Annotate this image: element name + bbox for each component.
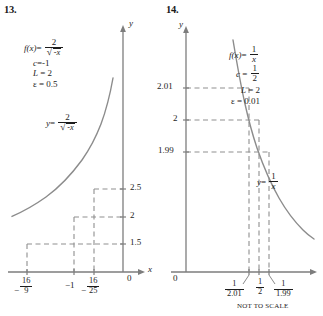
xtick-denominator: 2: [256, 288, 264, 297]
xtick-denominator: 25: [87, 287, 99, 296]
figure-13-curve-label: y= 2 √ -x: [46, 113, 78, 133]
param-L-value: 2: [48, 68, 53, 78]
fx-symbol: f(x): [24, 43, 37, 53]
figure-13-definition: f(x)= 2 √ -x: [24, 38, 64, 58]
param-c: c=-1: [33, 59, 58, 68]
y-axis-label: y: [179, 19, 183, 29]
x-axis-label: x: [148, 264, 152, 274]
y-axis-arrow: [183, 26, 189, 33]
radicand: -x: [53, 48, 62, 58]
param-L-equals: =: [40, 68, 45, 78]
param-c-denominator: 2: [251, 74, 260, 83]
param-c-equals: =: [242, 69, 247, 79]
param-epsilon-equals: =: [237, 96, 242, 106]
param-epsilon-name: ε: [231, 96, 235, 106]
param-L-equals: =: [248, 85, 253, 95]
figure-14: 14.: [161, 0, 323, 316]
figure-14-definition: f(x)= 1 x: [229, 45, 259, 64]
origin-label: 0: [127, 273, 132, 283]
xtick-numerator: 1: [70, 280, 75, 290]
ytick-label-1.99: 1.99: [158, 145, 174, 155]
fraction-denominator: √ -x: [45, 48, 64, 58]
curve-label-fraction: 2 √ -x: [58, 113, 77, 133]
equals-sign: =: [37, 43, 42, 53]
curve-label-radical-expression: √ -x: [60, 123, 75, 133]
param-epsilon: ε = 0.5: [33, 80, 58, 89]
figure-13-parameters: c=-1 L = 2 ε = 0.5: [33, 59, 58, 90]
curve-label-denominator: √ -x: [58, 123, 77, 133]
xtick-sign: −: [81, 285, 86, 295]
radical-icon: √: [60, 123, 65, 133]
curve-label-equals: =: [50, 118, 55, 128]
ytick-label-2.01: 2.01: [157, 81, 173, 91]
param-c: c = 1 2: [231, 64, 260, 83]
ytick-label-2.5: 2.5: [130, 182, 141, 192]
xtick-label-neg16-9: −169: [14, 277, 33, 295]
param-c-fraction: 1 2: [251, 64, 260, 83]
ytick-label-1.5: 1.5: [130, 237, 141, 247]
xtick-sign: −: [14, 285, 19, 295]
xtick-denominator: 1.99: [274, 290, 293, 299]
xtick-label-1-over-1.99: 11.99: [273, 280, 294, 298]
curve-label-equals: =: [261, 177, 266, 187]
curve-label-fraction: 1 x: [269, 172, 278, 191]
figure-page: 13.: [0, 0, 323, 316]
param-L: L = 2: [33, 69, 58, 78]
param-L-name: L: [241, 85, 246, 95]
origin-label: 0: [173, 273, 178, 283]
curve-label-denominator: x: [269, 182, 278, 191]
param-L-value: 2: [256, 85, 261, 95]
x-axis-arrow: [310, 269, 317, 275]
radical-expression: √ -x: [47, 48, 62, 58]
xtick-label-neg16-25: −1625: [81, 277, 100, 295]
param-c-value: -1: [42, 58, 50, 68]
param-epsilon: ε = 0.01: [231, 97, 260, 106]
ytick-label-2: 2: [130, 210, 135, 220]
x-axis-arrow: [138, 269, 145, 275]
param-epsilon-value: 0.5: [46, 79, 57, 89]
equals-sign: =: [242, 50, 247, 60]
not-to-scale-note: NOT TO SCALE: [237, 302, 288, 310]
figure-13: 13.: [0, 0, 162, 316]
param-L-name: L: [33, 68, 38, 78]
param-epsilon-equals: =: [39, 79, 44, 89]
y-axis-label: y: [129, 18, 133, 28]
figure-14-parameters: c = 1 2 L = 2 ε = 0.01: [231, 64, 260, 107]
figure-14-curve-label: y= 1 x: [257, 172, 279, 191]
param-L: L = 2: [231, 86, 260, 95]
fx-symbol: f(x): [229, 50, 242, 60]
xtick-denominator: 2.01: [225, 290, 244, 299]
xtick-label-1-over-2.01: 12.01: [224, 280, 245, 298]
curve-13: [12, 78, 113, 216]
xtick-denominator: 9: [20, 287, 32, 296]
xtick-label-neg1: −1: [65, 280, 75, 290]
definition-fraction: 1 x: [250, 45, 259, 64]
ytick-label-2: 2: [173, 113, 178, 123]
y-axis-arrow: [120, 25, 126, 32]
definition-fraction: 2 √ -x: [45, 38, 64, 58]
param-epsilon-value: 0.01: [244, 96, 260, 106]
xtick-label-1-over-2: 12: [255, 278, 265, 296]
curve-label-radicand: -x: [66, 123, 75, 133]
radical-icon: √: [47, 48, 52, 58]
param-epsilon-name: ε: [33, 79, 37, 89]
param-c-name: c: [236, 69, 240, 79]
